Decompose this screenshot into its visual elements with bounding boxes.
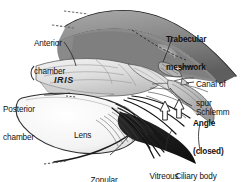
label-posterior-chamber: Posterior chamber: [3, 86, 35, 161]
label-anterior-chamber-line1: Anterior: [34, 39, 65, 48]
label-trabecular-meshwork-line1: Trabecular: [166, 35, 206, 44]
label-lens-line1: Lens: [74, 131, 91, 140]
label-iris: IRIS: [54, 57, 74, 104]
label-lens: Lens: [74, 112, 91, 159]
label-angle-closed-line1: Angle: [193, 119, 224, 128]
label-zonular-fibers-line1: Zonular: [76, 176, 132, 182]
label-zonular-fibers: Zonular fibers: [76, 157, 132, 182]
eye-anatomy-figure: Anterior chamber IRIS Posterior chamber …: [0, 0, 242, 182]
label-posterior-chamber-line1: Posterior: [3, 105, 35, 114]
label-iris-line1: IRIS: [54, 76, 74, 85]
label-ciliary-body: Ciliary body (abnormal anterior placemen…: [150, 153, 242, 182]
label-posterior-chamber-line2: chamber: [3, 133, 35, 142]
label-ciliary-body-line1: Ciliary body: [150, 172, 242, 181]
